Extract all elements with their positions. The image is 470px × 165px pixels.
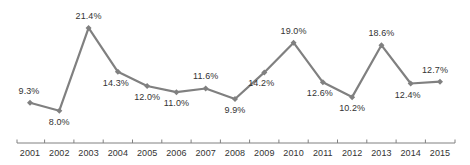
data-point-label: 11.0%: [161, 98, 191, 108]
x-axis-tick-label: 2005: [132, 148, 162, 158]
line-chart: 9.3%8.0%21.4%14.3%12.0%11.0%11.6%9.9%14.…: [0, 0, 470, 165]
data-point-label: 8.0%: [44, 117, 74, 127]
x-axis-tick-label: 2012: [337, 148, 367, 158]
x-axis-tick-label: 2008: [220, 148, 250, 158]
data-point-label: 14.2%: [246, 78, 276, 88]
data-point-label: 19.0%: [279, 26, 309, 36]
data-point-marker: [203, 85, 209, 91]
x-axis-tick-label: 2015: [425, 148, 455, 158]
x-axis-ticks: [17, 140, 455, 144]
data-point-label: 9.9%: [220, 105, 250, 115]
data-point-marker: [437, 79, 443, 85]
data-point-marker: [56, 108, 62, 114]
x-axis-tick-label: 2004: [103, 148, 133, 158]
data-point-label: 11.6%: [191, 71, 221, 81]
x-axis-tick-label: 2009: [249, 148, 279, 158]
data-point-label: 12.0%: [132, 92, 162, 102]
data-point-label: 9.3%: [14, 86, 44, 96]
data-point-label: 14.3%: [101, 78, 131, 88]
x-axis-tick-label: 2003: [74, 148, 104, 158]
x-axis-tick-label: 2002: [44, 148, 74, 158]
x-axis-group: [17, 140, 455, 144]
data-point-label: 21.4%: [74, 11, 104, 21]
chart-plot-area: [0, 0, 470, 165]
x-axis-tick-label: 2011: [308, 148, 338, 158]
data-point-marker: [27, 100, 33, 106]
x-axis-tick-label: 2013: [366, 148, 396, 158]
x-axis-tick-label: 2006: [161, 148, 191, 158]
x-axis-tick-label: 2001: [15, 148, 45, 158]
data-point-label: 12.4%: [393, 90, 423, 100]
x-axis-tick-label: 2010: [279, 148, 309, 158]
data-point-marker: [173, 89, 179, 95]
x-axis-tick-label: 2007: [191, 148, 221, 158]
data-point-label: 18.6%: [366, 28, 396, 38]
series-markers: [27, 25, 443, 114]
data-point-label: 12.6%: [305, 88, 335, 98]
data-point-label: 12.7%: [420, 65, 450, 75]
x-axis-tick-label: 2014: [396, 148, 426, 158]
data-point-label: 10.2%: [337, 103, 367, 113]
